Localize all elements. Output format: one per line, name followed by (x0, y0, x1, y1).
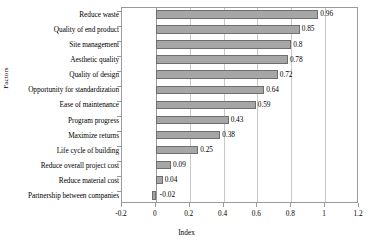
x-axis-tick (189, 203, 190, 207)
bar-value-label: 0.85 (302, 21, 315, 36)
x-axis-tick (256, 203, 257, 207)
bar-row: 0.78 (122, 53, 357, 68)
x-axis-tick (223, 203, 224, 207)
y-axis-tick (117, 176, 121, 177)
bar-row: 0.72 (122, 68, 357, 83)
bar-value-label: 0.38 (222, 127, 235, 142)
category-axis-label: Life cycle of building (57, 143, 119, 158)
x-axis-tick-label: -0.2 (106, 208, 136, 220)
bar-value-label: 0.59 (258, 97, 271, 112)
bar-row: 0.96 (122, 8, 357, 23)
category-axis-label: Program progress (68, 113, 119, 128)
bar-value-label: -0.02 (160, 187, 175, 202)
bar (156, 131, 220, 139)
category-axis-label: Reduce material cost (59, 173, 119, 188)
bar-value-label: 0.09 (173, 157, 186, 172)
bar (156, 176, 163, 184)
y-axis-tick (117, 86, 121, 87)
y-axis-tick (117, 41, 121, 42)
x-axis-tick (358, 203, 359, 207)
x-axis-tick (155, 203, 156, 207)
bar (156, 146, 198, 154)
y-axis-tick (117, 146, 121, 147)
x-axis-tick-label: 1 (309, 208, 339, 220)
x-axis-tick-label: 0.2 (174, 208, 204, 220)
x-axis-tick (290, 203, 291, 207)
bar-value-label: 0.78 (290, 52, 303, 67)
bar-value-label: 0.96 (320, 6, 333, 21)
y-axis-tick (117, 131, 121, 132)
y-axis-tick (117, 101, 121, 102)
bar-value-label: 0.25 (200, 142, 213, 157)
x-axis-tick-label: 1.2 (343, 208, 373, 220)
bar-row: 0.85 (122, 23, 357, 38)
category-axis-label: Site management (69, 37, 119, 52)
bar-chart: Factors Reduce wasteQuality of end produ… (0, 0, 373, 248)
y-axis-tick (117, 71, 121, 72)
category-axis-label: Aesthetic quality (70, 52, 119, 67)
bar (156, 161, 171, 169)
bar-row: 0.09 (122, 159, 357, 174)
bar (156, 86, 264, 94)
category-axis-label: Quality of design (69, 67, 119, 82)
bar (156, 55, 288, 63)
y-axis-tick (117, 116, 121, 117)
y-axis-tick (117, 191, 121, 192)
y-axis-tick (117, 11, 121, 12)
bar (156, 25, 300, 33)
bar-row: 0.04 (122, 174, 357, 189)
bar-row: 0.38 (122, 129, 357, 144)
x-axis-tick-label: 0 (140, 208, 170, 220)
x-axis-tick-label: 0.8 (275, 208, 305, 220)
x-axis-tick (121, 203, 122, 207)
y-axis-tick (117, 161, 121, 162)
category-axis-labels: Reduce wasteQuality of end productSite m… (8, 7, 121, 203)
x-axis-tick-label: 0.6 (241, 208, 271, 220)
bar-row: 0.43 (122, 114, 357, 129)
category-axis-label: Opportunity for standardization (28, 82, 119, 97)
category-axis-label: Reduce overall project cost (41, 158, 119, 173)
x-axis-title: Index (0, 228, 373, 238)
y-axis-tick (117, 56, 121, 57)
category-axis-label: Quality of end product (54, 22, 119, 37)
bar (156, 10, 319, 18)
bar (156, 40, 291, 48)
x-axis-tick-label: 0.4 (208, 208, 238, 220)
bar (152, 191, 155, 199)
bar-value-label: 0.64 (266, 82, 279, 97)
bar-value-label: 0.72 (280, 67, 293, 82)
category-axis-label: Maximize returns (68, 128, 119, 143)
bar-value-label: 0.43 (231, 112, 244, 127)
bar (156, 101, 256, 109)
bar (156, 70, 278, 78)
category-axis-label: Ease of maintenance (60, 97, 119, 112)
plot-area: 0.960.850.80.780.720.640.590.430.380.250… (121, 7, 358, 203)
bar-value-label: 0.04 (165, 172, 178, 187)
bar-row: -0.02 (122, 189, 357, 204)
bar-value-label: 0.8 (293, 37, 302, 52)
bar-row: 0.8 (122, 38, 357, 53)
x-axis-tick-labels: -0.200.20.40.60.811.2 (0, 208, 373, 220)
bar-row: 0.25 (122, 144, 357, 159)
y-axis-tick (117, 26, 121, 27)
bar (156, 116, 229, 124)
x-axis-tick (324, 203, 325, 207)
category-axis-label: Reduce waste (79, 7, 119, 22)
bar-row: 0.64 (122, 83, 357, 98)
category-axis-label: Partnership between companies (28, 188, 119, 203)
